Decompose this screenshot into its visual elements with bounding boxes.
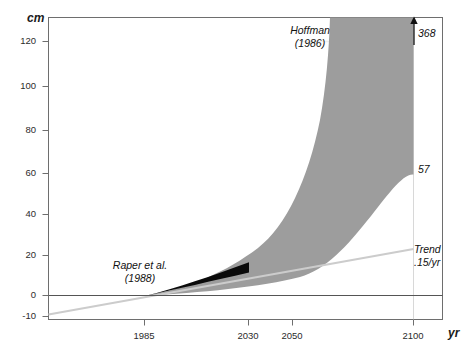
x-axis-title: yr [448,326,460,340]
y-tick-label-0: 0 [10,289,36,300]
hoffman-annotation-line1: Hoffman [268,24,352,37]
raper-annotation: Raper et al. (1988) [95,259,185,284]
y-tick-label-minus10: -10 [10,310,36,321]
x-tick-label-2030: 2030 [228,330,268,341]
trend-annotation-line2: .15/yr [414,256,462,269]
y-tick-label-120: 120 [10,35,36,46]
y-axis-title: cm [27,11,45,25]
x-tick-label-2050: 2050 [272,330,312,341]
y-axis-ticks [43,42,49,317]
y-tick-label-80: 80 [10,124,36,135]
y-tick-label-20: 20 [10,249,36,260]
trend-annotation: Trend .15/yr [414,243,462,268]
raper-annotation-line2: (1988) [95,272,185,285]
value-label-high: 368 [418,27,436,39]
sea-level-rise-chart [0,0,470,354]
value-label-low: 57 [418,163,430,175]
x-tick-label-2100: 2100 [393,330,433,341]
raper-annotation-line1: Raper et al. [95,259,185,272]
hoffman-annotation-line2: (1986) [268,37,352,50]
y-tick-label-100: 100 [10,80,36,91]
x-tick-label-1985: 1985 [124,330,164,341]
y-tick-label-60: 60 [10,167,36,178]
x-axis-ticks [145,320,414,326]
chart-canvas: cm yr 120 100 80 60 40 20 0 -10 1985 203… [0,0,470,354]
hoffman-band [146,18,414,296]
hoffman-annotation: Hoffman (1986) [268,24,352,49]
trend-annotation-line1: Trend [414,243,462,256]
y-tick-label-40: 40 [10,208,36,219]
